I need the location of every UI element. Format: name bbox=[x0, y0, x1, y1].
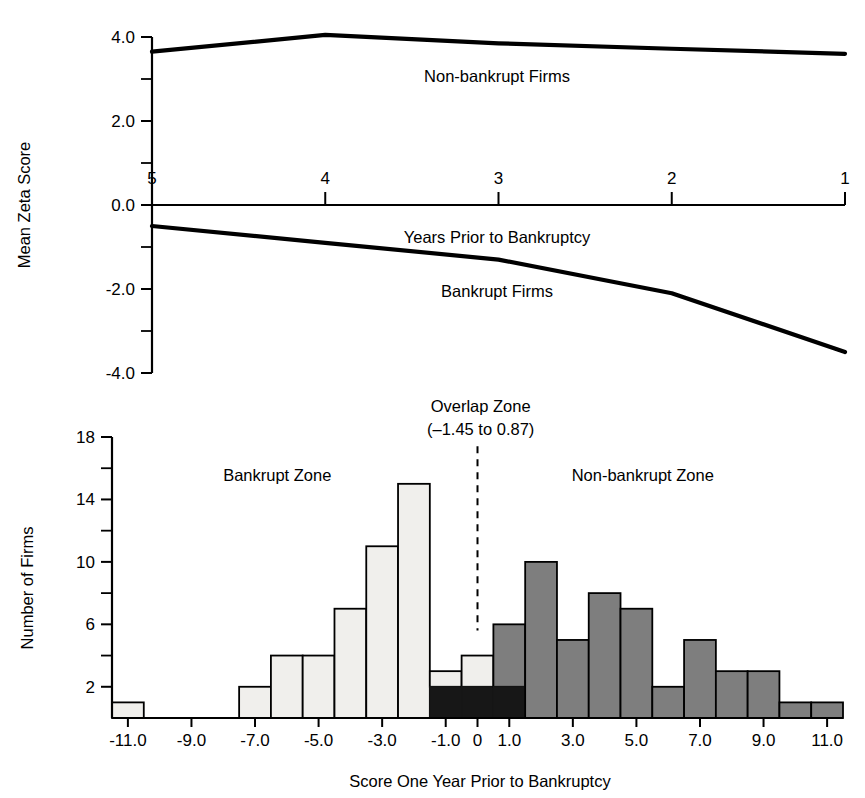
line-chart-x-tick-label: 4 bbox=[321, 169, 330, 188]
histogram-bar-non-bankrupt bbox=[748, 671, 780, 718]
line-chart-x-tick-label: 5 bbox=[147, 169, 156, 188]
line-chart-y-axis bbox=[141, 37, 152, 373]
histogram-x-tick-label: -9.0 bbox=[177, 731, 206, 750]
histogram-annotation-overlap-zone-range: (–1.45 to 0.87) bbox=[427, 420, 534, 438]
histogram-annotation-nonbankrupt-zone: Non-bankrupt Zone bbox=[572, 466, 714, 484]
histogram-x-tick-label: 5.0 bbox=[625, 731, 649, 750]
histogram-bar-bankrupt bbox=[239, 687, 271, 718]
histogram-bar-bankrupt bbox=[430, 671, 462, 687]
histogram-x-tick-label: -3.0 bbox=[368, 731, 397, 750]
histogram-bar-overlap bbox=[493, 687, 525, 718]
histogram-bar-overlap bbox=[462, 687, 494, 718]
histogram-x-axis-title: Score One Year Prior to Bankruptcy bbox=[349, 772, 611, 790]
histogram-bar-bankrupt bbox=[271, 656, 303, 718]
line-chart-x-tick-label: 2 bbox=[667, 169, 676, 188]
histogram-bar-bankrupt bbox=[303, 656, 335, 718]
histogram-bar-bankrupt bbox=[462, 656, 494, 687]
histogram-bar-bankrupt bbox=[112, 702, 144, 718]
line-chart-series-non-bankrupt bbox=[152, 35, 845, 54]
histogram-bar-non-bankrupt bbox=[525, 562, 557, 718]
histogram-bar-non-bankrupt bbox=[716, 671, 748, 718]
figure-root: 4.02.00.0-2.0-4.0 54321 Non-bankrupt Fir… bbox=[0, 0, 865, 798]
line-chart-y-tick-labels: 4.02.00.0-2.0-4.0 bbox=[106, 28, 135, 383]
line-chart-y-tick-label: -4.0 bbox=[106, 364, 135, 383]
histogram-x-tick-label: 3.0 bbox=[561, 731, 585, 750]
line-chart-mean-zeta-score: 4.02.00.0-2.0-4.0 54321 Non-bankrupt Fir… bbox=[15, 28, 850, 383]
histogram-x-tick-label: 9.0 bbox=[752, 731, 776, 750]
histogram-bar-non-bankrupt bbox=[684, 640, 716, 718]
histogram-y-tick-label: 18 bbox=[76, 428, 95, 447]
line-chart-y-tick-label: -2.0 bbox=[106, 280, 135, 299]
histogram-y-axis bbox=[101, 437, 112, 718]
histogram-score-distribution: 18141062 -11.0-9.0-7.0-5.0-3.0-1.001.03.… bbox=[18, 397, 843, 790]
histogram-y-tick-label: 10 bbox=[76, 553, 95, 572]
histogram-bar-overlap bbox=[430, 687, 462, 718]
histogram-bar-non-bankrupt bbox=[589, 593, 621, 718]
histogram-x-tick-label: 11.0 bbox=[811, 731, 843, 750]
histogram-bar-non-bankrupt bbox=[811, 702, 843, 718]
histogram-y-tick-label: 6 bbox=[86, 615, 95, 634]
histogram-bar-non-bankrupt bbox=[652, 687, 684, 718]
histogram-annotation-overlap-zone-title: Overlap Zone bbox=[431, 397, 531, 415]
histogram-bar-non-bankrupt bbox=[557, 640, 589, 718]
line-chart-x-axis-title: Years Prior to Bankruptcy bbox=[404, 228, 591, 246]
histogram-annotations: Bankrupt ZoneNon-bankrupt ZoneOverlap Zo… bbox=[223, 397, 714, 484]
line-chart-y-tick-label: 2.0 bbox=[111, 112, 135, 131]
line-chart-label-bankrupt-firms: Bankrupt Firms bbox=[441, 282, 553, 300]
histogram-bar-bankrupt bbox=[366, 546, 398, 718]
histogram-y-tick-label: 2 bbox=[86, 678, 95, 697]
histogram-x-tick-label: -1.0 bbox=[431, 731, 460, 750]
histogram-x-tick-label: -11.0 bbox=[109, 731, 147, 750]
histogram-x-tick-labels: -11.0-9.0-7.0-5.0-3.0-1.001.03.05.07.09.… bbox=[109, 731, 843, 750]
histogram-bar-bankrupt bbox=[398, 484, 430, 718]
histogram-x-axis bbox=[112, 718, 843, 727]
histogram-x-tick-label: 1.0 bbox=[497, 731, 521, 750]
histogram-y-axis-title: Number of Firms bbox=[18, 527, 36, 650]
histogram-y-tick-label: 14 bbox=[76, 490, 95, 509]
line-chart-x-tick-label: 3 bbox=[494, 169, 503, 188]
histogram-x-tick-label: -7.0 bbox=[240, 731, 269, 750]
histogram-annotation-bankrupt-zone: Bankrupt Zone bbox=[223, 466, 331, 484]
histogram-bar-non-bankrupt bbox=[621, 609, 653, 718]
histogram-y-tick-labels: 18141062 bbox=[76, 428, 95, 697]
line-chart-x-tick-label: 1 bbox=[840, 169, 849, 188]
line-chart-x-axis bbox=[152, 192, 845, 205]
histogram-bar-bankrupt bbox=[334, 609, 366, 718]
histogram-x-tick-label: 7.0 bbox=[688, 731, 712, 750]
line-chart-label-non-bankrupt-firms: Non-bankrupt Firms bbox=[424, 67, 570, 85]
histogram-x-tick-label: -5.0 bbox=[304, 731, 333, 750]
figure-canvas: 4.02.00.0-2.0-4.0 54321 Non-bankrupt Fir… bbox=[0, 0, 865, 798]
histogram-bars-group bbox=[112, 484, 843, 718]
line-chart-y-tick-label: 4.0 bbox=[111, 28, 135, 47]
histogram-bar-non-bankrupt bbox=[779, 702, 811, 718]
line-chart-y-tick-label: 0.0 bbox=[111, 196, 135, 215]
line-chart-y-axis-title: Mean Zeta Score bbox=[15, 142, 33, 269]
line-chart-x-tick-labels: 54321 bbox=[147, 169, 849, 188]
histogram-bar-non-bankrupt bbox=[493, 624, 525, 686]
histogram-x-tick-label: 0 bbox=[473, 731, 482, 750]
